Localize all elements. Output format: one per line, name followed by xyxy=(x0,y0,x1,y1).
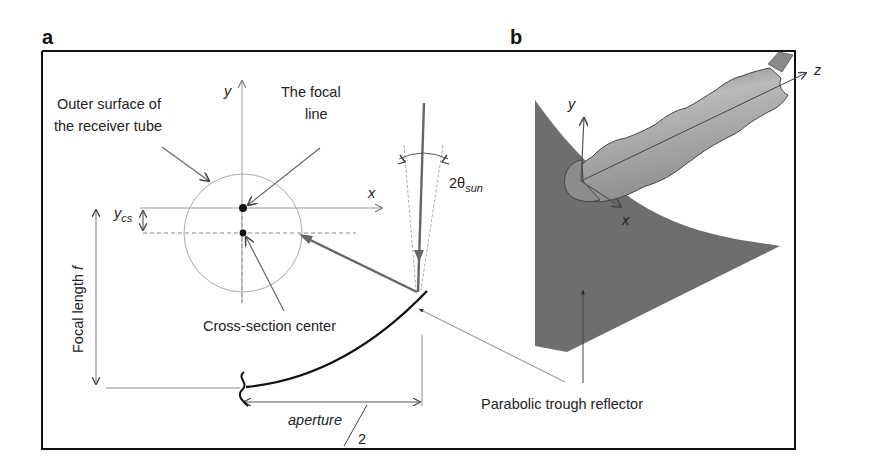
b-z-axis xyxy=(581,73,806,181)
parabolic-trough-reflector-label: Parabolic trough reflector xyxy=(481,396,643,412)
sun-cone-right xyxy=(421,145,443,290)
aperture-divisor-label: 2 xyxy=(358,431,366,447)
reflected-ray xyxy=(302,236,417,292)
panel-a: Outer surface of the receiver tube The f… xyxy=(54,81,565,447)
focal-point-dot xyxy=(239,204,247,212)
b-y-axis-label: y xyxy=(567,96,576,112)
cross-section-center-dot xyxy=(240,230,247,237)
b-x-axis-label: x xyxy=(621,212,630,228)
cross-section-leader xyxy=(246,237,284,311)
receiver-tube-body xyxy=(576,68,788,202)
break-symbol xyxy=(240,372,248,406)
b-z-axis-label: z xyxy=(813,62,822,78)
y-axis-label: y xyxy=(223,83,232,99)
panel-b: y x z Parabolic trough reflector xyxy=(481,52,822,412)
cross-section-center-label: Cross-section center xyxy=(203,318,336,334)
parabolic-curve xyxy=(246,291,427,387)
ycs-label: ycs xyxy=(113,205,133,224)
sun-cone-left xyxy=(404,145,416,290)
outer-surface-label-1: Outer surface of xyxy=(57,96,162,112)
two-theta-sun-label: 2θsun xyxy=(449,175,483,194)
focal-line-label-1: The focal xyxy=(281,84,341,100)
x-axis-label: x xyxy=(367,185,376,201)
focal-length-label: Focal length f xyxy=(70,264,86,353)
outer-surface-label-2: the receiver tube xyxy=(54,118,162,134)
aperture-label: aperture xyxy=(288,412,342,428)
sun-ray-arrowhead xyxy=(414,250,424,262)
outer-surface-leader xyxy=(162,147,209,181)
focal-line-label-2: line xyxy=(305,106,328,122)
figure-canvas: Outer surface of the receiver tube The f… xyxy=(0,0,871,475)
sun-ray-incoming xyxy=(418,103,424,292)
